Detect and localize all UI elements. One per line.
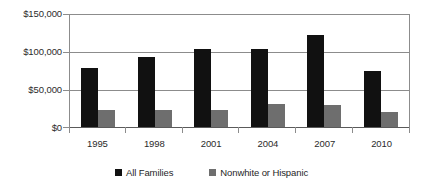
legend-item-nonwhite-or-hispanic: Nonwhite or Hispanic bbox=[209, 167, 308, 178]
bar bbox=[81, 68, 98, 128]
bar bbox=[381, 112, 398, 127]
bar bbox=[138, 57, 155, 127]
bar-group bbox=[240, 14, 297, 127]
bar bbox=[194, 49, 211, 127]
x-axis-tick-mark bbox=[126, 127, 183, 133]
legend-label: All Families bbox=[126, 167, 173, 178]
y-axis-tick-label-50000: $50,000 bbox=[0, 85, 62, 95]
x-axis-tick-mark bbox=[239, 127, 296, 133]
y-axis-tick-label-0: $0 bbox=[0, 123, 62, 133]
x-axis-tick-label: 2007 bbox=[296, 138, 353, 149]
x-axis: 1995 1998 2001 2004 2007 2010 bbox=[69, 138, 410, 149]
x-axis-tick-mark bbox=[353, 127, 410, 133]
x-axis-ticks bbox=[69, 127, 410, 133]
bar-group bbox=[183, 14, 240, 127]
x-axis-tick-label: 1995 bbox=[69, 138, 126, 149]
black-square-marker-icon bbox=[115, 169, 122, 176]
bar bbox=[155, 110, 172, 127]
bar bbox=[211, 110, 228, 127]
bar-group bbox=[127, 14, 184, 127]
x-axis-tick-mark bbox=[183, 127, 240, 133]
bar bbox=[268, 104, 285, 127]
x-axis-tick-mark bbox=[296, 127, 353, 133]
bar bbox=[324, 105, 341, 127]
x-axis-tick-label: 1998 bbox=[126, 138, 183, 149]
x-axis-tick-label: 2004 bbox=[239, 138, 296, 149]
gray-square-marker-icon bbox=[209, 169, 216, 176]
y-axis-tick-label-150000: $150,000 bbox=[0, 9, 62, 19]
bar bbox=[307, 35, 324, 127]
bar-group bbox=[296, 14, 353, 127]
legend-item-all-families: All Families bbox=[115, 167, 173, 178]
x-axis-tick-label: 2001 bbox=[183, 138, 240, 149]
x-axis-tick-mark bbox=[69, 127, 126, 133]
bar-groups bbox=[70, 14, 409, 127]
x-axis-tick-label: 2010 bbox=[353, 138, 410, 149]
chart-legend: All Families Nonwhite or Hispanic bbox=[0, 167, 423, 178]
plot-area bbox=[69, 14, 410, 128]
bar-group bbox=[70, 14, 127, 127]
bar bbox=[251, 49, 268, 127]
y-axis-tick-label-100000: $100,000 bbox=[0, 47, 62, 57]
bar bbox=[364, 71, 381, 128]
legend-label: Nonwhite or Hispanic bbox=[220, 167, 308, 178]
bar-group bbox=[353, 14, 410, 127]
bar bbox=[98, 110, 115, 127]
bar-chart: $150,000 $100,000 $50,000 $0 1995 1998 2… bbox=[0, 0, 423, 196]
